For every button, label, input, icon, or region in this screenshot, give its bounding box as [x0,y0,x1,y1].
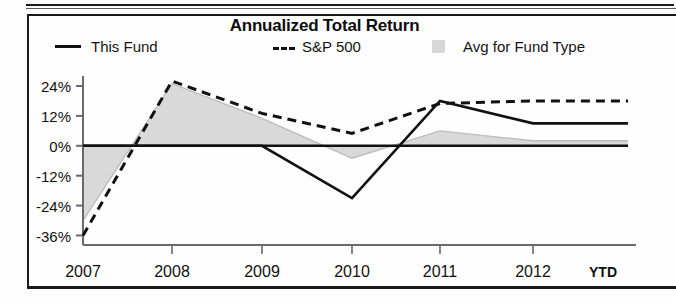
y-axis-tick-label: -36% [36,228,71,245]
x-axis-tick-label: 2007 [65,263,101,280]
plot-area: 24%12%0%-12%-24%-36%20072008200920102011… [0,0,676,302]
x-axis-ytd-label: YTD [589,264,617,280]
chart-svg: 24%12%0%-12%-24%-36%20072008200920102011… [0,0,676,302]
y-axis-tick-label: -24% [36,198,71,215]
y-axis-tick-label: 0% [49,138,71,155]
x-axis-tick-label: 2009 [244,263,280,280]
y-axis-tick-label: -12% [36,168,71,185]
x-axis-tick-label: 2011 [423,263,458,280]
x-axis-tick-label: 2010 [334,263,370,280]
x-axis-tick-label: 2008 [154,263,190,280]
y-axis-tick-label: 24% [41,78,71,95]
y-axis-tick-label: 12% [41,108,71,125]
x-axis-tick-label: 2012 [515,263,551,280]
chart-panel: Annualized Total Return This Fund S&P 50… [0,0,676,302]
